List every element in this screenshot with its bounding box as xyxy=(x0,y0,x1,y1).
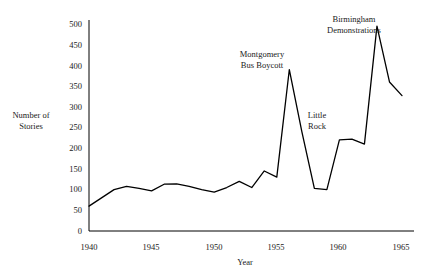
y-tick-250: 250 xyxy=(56,123,82,132)
y-tick-100: 100 xyxy=(56,185,82,194)
y-axis-title: Number of Stories xyxy=(6,110,56,132)
y-tick-50: 50 xyxy=(56,206,82,215)
annotation-montgomery-bus-boycott: Montgomery Bus Boycott xyxy=(231,49,293,71)
annotation-birmingham-demonstrations: Birmingham Demonstrations xyxy=(318,14,390,36)
y-tick-0: 0 xyxy=(56,227,82,236)
y-tick-450: 450 xyxy=(56,41,82,50)
x-tick-1950: 1950 xyxy=(197,243,231,252)
y-axis-title-line-1: Number of xyxy=(6,110,56,121)
annotation-montgomery-line-1: Montgomery xyxy=(231,49,293,60)
y-tick-200: 200 xyxy=(56,144,82,153)
annotation-birmingham-line-1: Birmingham xyxy=(318,14,390,25)
annotation-little-rock: Little Rock xyxy=(300,110,334,132)
annotation-little-rock-line-2: Rock xyxy=(300,121,334,132)
x-tick-1965: 1965 xyxy=(384,243,418,252)
annotation-little-rock-line-1: Little xyxy=(300,110,334,121)
annotation-birmingham-line-2: Demonstrations xyxy=(318,25,390,36)
y-tick-300: 300 xyxy=(56,103,82,112)
y-axis-title-line-2: Stories xyxy=(6,121,56,132)
x-tick-1940: 1940 xyxy=(72,243,106,252)
x-tick-1960: 1960 xyxy=(321,243,355,252)
y-tick-350: 350 xyxy=(56,82,82,91)
y-tick-500: 500 xyxy=(56,20,82,29)
x-axis-title: Year xyxy=(227,257,263,268)
x-tick-1945: 1945 xyxy=(134,243,168,252)
x-tick-1955: 1955 xyxy=(259,243,293,252)
y-tick-400: 400 xyxy=(56,62,82,71)
y-tick-150: 150 xyxy=(56,165,82,174)
chart-figure: 500 450 400 350 300 250 200 150 100 50 0… xyxy=(0,0,425,278)
annotation-montgomery-line-2: Bus Boycott xyxy=(231,60,293,71)
